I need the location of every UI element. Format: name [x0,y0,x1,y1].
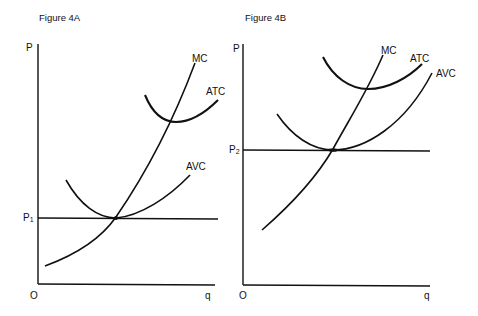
figure-4a-x-label: q [205,290,211,301]
figure-4b: Figure 4B P O q P2 AVC ATC MC [229,12,456,301]
figure-4a-avc-label: AVC [186,161,206,172]
figure-4a-price-label: P1 [23,212,34,223]
figure-4a-mc-curve [45,63,195,266]
figure-4b-origin-label: O [239,290,247,301]
figure-4b-title: Figure 4B [245,12,286,23]
figure-4a-title: Figure 4A [39,12,81,23]
figure-4b-avc-label: AVC [436,68,456,79]
figure-4b-atc-label: ATC [410,53,429,64]
figure-4a-origin-label: O [30,290,38,301]
figure-4b-y-label: P [233,43,240,54]
figure-4a-x-axis [38,284,215,285]
figure-4a-mc-label: MC [192,53,208,64]
figure-4a-avc-curve [66,175,190,218]
figure-4b-min-avc-point [328,148,338,152]
figure-4a-y-label: P [26,42,33,53]
figure-4b-atc-curve [323,57,422,89]
figure-4a-atc-curve [145,95,218,122]
figure-4b-x-axis [243,285,430,286]
figures-canvas: Figure 4A P O q P1 AVC ATC MC Figure 4B … [0,0,478,316]
figure-4a: Figure 4A P O q P1 AVC ATC MC [23,12,225,301]
figure-4b-mc-label: MC [381,45,397,56]
figure-4a-min-avc-point [114,216,118,220]
figure-4a-price-line [38,218,218,219]
figure-4b-price-label: P2 [229,144,240,155]
figure-4b-x-label: q [424,290,430,301]
figure-4a-atc-label: ATC [206,86,225,97]
